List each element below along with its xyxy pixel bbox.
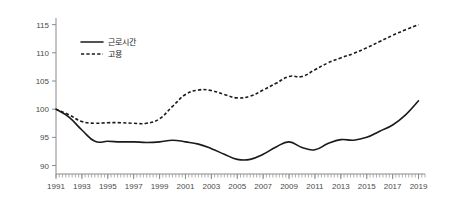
y-tick-group (52, 25, 56, 166)
x-tick-label-group: 1991199319951997199920012003200520072009… (47, 182, 428, 191)
x-tick-label: 1991 (47, 182, 65, 191)
x-tick-label: 2007 (254, 182, 272, 191)
x-tick-label: 2019 (410, 182, 428, 191)
x-tick-label: 1999 (151, 182, 169, 191)
y-tick-label: 110 (36, 49, 49, 58)
y-tick-label: 105 (36, 77, 50, 86)
x-tick-label: 2005 (228, 182, 246, 191)
y-tick-label: 95 (40, 133, 49, 142)
y-axis: 9095100105110115 (36, 18, 56, 174)
x-major-tick-group (56, 174, 419, 179)
y-tick-label: 100 (36, 105, 50, 114)
chart-canvas: 9095100105110115 19911993199519971999200… (0, 0, 449, 216)
x-minor-tick-group (56, 174, 425, 178)
y-tick-label-group: 9095100105110115 (36, 21, 50, 171)
x-tick-label: 2003 (202, 182, 220, 191)
x-tick-label: 2011 (306, 182, 324, 191)
x-tick-label: 2013 (332, 182, 350, 191)
x-tick-label: 2015 (358, 182, 376, 191)
y-tick-label: 115 (36, 21, 49, 30)
line-chart: 9095100105110115 19911993199519971999200… (0, 0, 449, 216)
x-tick-label: 2001 (177, 182, 195, 191)
series-line-1 (56, 101, 419, 160)
y-tick-label: 90 (40, 162, 49, 171)
x-tick-label: 2017 (384, 182, 402, 191)
x-tick-label: 1993 (73, 182, 91, 191)
legend-label-2: 고용 (108, 50, 122, 59)
legend-label-1: 근로시간 (108, 37, 137, 47)
x-axis: 1991199319951997199920012003200520072009… (47, 174, 428, 191)
x-tick-label: 1995 (99, 182, 117, 191)
chart-legend: 근로시간고용 (81, 37, 137, 59)
x-tick-label: 2009 (280, 182, 298, 191)
x-tick-label: 1997 (125, 182, 143, 191)
